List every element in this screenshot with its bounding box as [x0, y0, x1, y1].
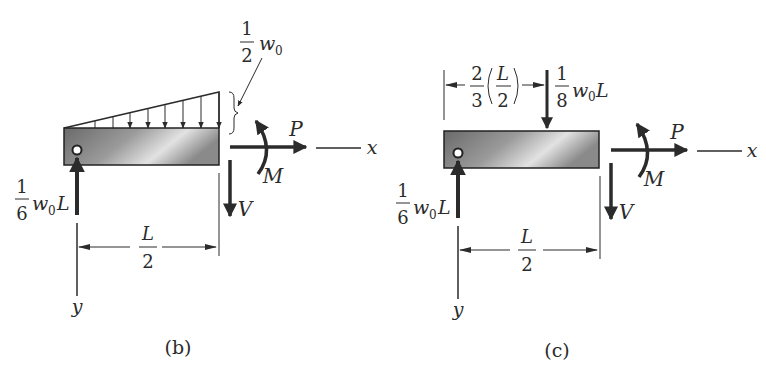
- free-body-diagrams: 1 2 w 0 1 6 w 0 L y L 2 P x: [0, 0, 766, 371]
- svg-text:6: 6: [16, 203, 27, 224]
- svg-text:L: L: [437, 196, 451, 218]
- axial-force-label: P: [288, 117, 303, 141]
- shear-label: V: [238, 197, 255, 221]
- dimension-den: 2: [142, 251, 153, 272]
- axial-force-label: P: [669, 120, 684, 144]
- moment-label: M: [262, 164, 284, 188]
- figure-b: 1 2 w 0 1 6 w 0 L y L 2 P x: [15, 18, 378, 358]
- svg-text:L: L: [595, 79, 609, 101]
- reaction-label: 1 6 w 0 L: [396, 180, 451, 228]
- dimension-num: L: [141, 223, 154, 244]
- load-intensity-subscript: 0: [275, 44, 283, 58]
- svg-text:w: w: [413, 196, 429, 218]
- svg-text:1: 1: [556, 63, 567, 84]
- dimension-den: 2: [521, 254, 532, 275]
- shear-label: V: [619, 200, 636, 224]
- beam-segment: [444, 131, 599, 168]
- svg-text:1: 1: [397, 180, 408, 201]
- svg-text:L: L: [56, 192, 70, 214]
- svg-text:2: 2: [497, 90, 508, 111]
- svg-text:8: 8: [556, 90, 567, 111]
- distributed-load: [64, 92, 219, 128]
- svg-text:1: 1: [16, 176, 27, 197]
- load-intensity-symbol: w: [259, 32, 275, 54]
- load-intensity-den: 2: [241, 45, 252, 66]
- caption-c: (c): [544, 339, 569, 361]
- figure-c: 2 3 L 2 1 8 w 0 L 1 6 w 0: [396, 63, 758, 361]
- pin-icon: [454, 149, 463, 158]
- svg-text:L: L: [496, 63, 509, 84]
- pin-icon: [73, 146, 82, 155]
- y-axis-label: y: [71, 295, 83, 317]
- svg-text:2: 2: [471, 63, 482, 84]
- beam-segment: [64, 128, 219, 165]
- svg-text:3: 3: [471, 90, 482, 111]
- reaction-label: 1 6 w 0 L: [15, 176, 70, 224]
- caption-b: (b): [165, 336, 192, 358]
- x-axis-label: x: [747, 139, 758, 161]
- y-axis-label: y: [452, 298, 464, 320]
- resultant-position-label: 2 3 L 2: [470, 63, 518, 111]
- load-intensity-num: 1: [241, 18, 252, 39]
- dimension-num: L: [520, 226, 533, 247]
- brace-icon: [229, 92, 238, 134]
- svg-text:w: w: [32, 192, 48, 214]
- svg-text:0: 0: [48, 204, 56, 218]
- svg-text:0: 0: [588, 90, 596, 104]
- svg-text:0: 0: [429, 208, 437, 222]
- svg-text:w: w: [572, 79, 588, 101]
- resultant-label: 1 8 w 0 L: [555, 63, 609, 111]
- moment-label: M: [643, 167, 665, 191]
- x-axis-label: x: [367, 136, 378, 158]
- svg-text:6: 6: [397, 207, 408, 228]
